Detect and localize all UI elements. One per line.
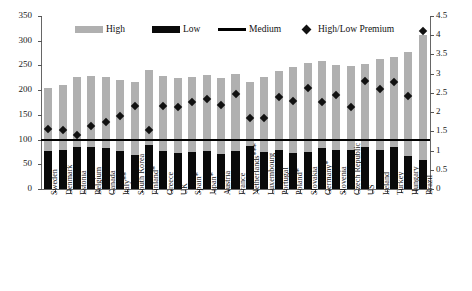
y-tick-right <box>430 170 434 171</box>
bar-group <box>275 16 283 189</box>
y-tick-label-right: 3.5 <box>436 49 466 58</box>
y-tick-label-right: 4 <box>436 30 466 39</box>
legend-label: Medium <box>249 24 281 34</box>
y-tick-label-right: 3 <box>436 69 466 78</box>
bar-group <box>145 16 153 189</box>
y-tick-right <box>430 151 434 152</box>
y-tick-right <box>430 16 434 17</box>
legend-swatch-premium <box>302 24 312 34</box>
chart-container: 05010015020025030035000.511.522.533.544.… <box>0 0 472 291</box>
bar-group <box>404 16 412 189</box>
y-tick-left <box>38 90 42 91</box>
legend-label: High <box>106 24 125 34</box>
bar-group <box>116 16 124 189</box>
y-axis-left <box>41 16 42 189</box>
bar-group <box>304 16 312 189</box>
bar-low <box>361 147 369 189</box>
legend-swatch-low <box>152 26 180 33</box>
y-tick-right <box>430 112 434 113</box>
y-tick-label-left: 100 <box>0 135 32 144</box>
y-tick-label-left: 350 <box>0 11 32 20</box>
y-tick-label-right: 0.5 <box>436 165 466 174</box>
bar-group <box>332 16 340 189</box>
y-tick-left <box>38 189 42 190</box>
bar-group <box>73 16 81 189</box>
y-tick-label-right: 0 <box>436 184 466 193</box>
legend-item: High/Low Premium <box>300 24 394 34</box>
legend-label: Low <box>183 24 200 34</box>
legend-item: Medium <box>218 24 281 34</box>
y-tick-label-right: 4.5 <box>436 11 466 20</box>
bar-group <box>376 16 384 189</box>
y-tick-left <box>38 164 42 165</box>
legend-swatch-high <box>75 26 103 33</box>
y-tick-left <box>38 41 42 42</box>
y-tick-label-left: 50 <box>0 159 32 168</box>
y-tick-right <box>430 35 434 36</box>
legend-item: Low <box>152 24 200 34</box>
y-axis-right <box>430 16 431 189</box>
legend-swatch-medium <box>218 28 246 31</box>
y-tick-label-right: 1 <box>436 146 466 155</box>
bar-group <box>44 16 52 189</box>
legend-item: High <box>75 24 125 34</box>
bar-group <box>102 16 110 189</box>
x-tick-label: Brazil <box>426 175 434 195</box>
bar-group <box>59 16 67 189</box>
y-tick-label-right: 1.5 <box>436 126 466 135</box>
bar-group <box>361 16 369 189</box>
y-tick-label-left: 0 <box>0 184 32 193</box>
y-tick-label-right: 2.5 <box>436 88 466 97</box>
y-tick-left <box>38 16 42 17</box>
bar-group <box>231 16 239 189</box>
bar-group <box>390 16 398 189</box>
y-tick-right <box>430 54 434 55</box>
medium-line <box>41 139 430 141</box>
y-tick-label-right: 2 <box>436 107 466 116</box>
bar-group <box>87 16 95 189</box>
y-tick-label-left: 200 <box>0 85 32 94</box>
y-tick-label-left: 150 <box>0 110 32 119</box>
y-tick-label-left: 300 <box>0 36 32 45</box>
y-tick-label-left: 250 <box>0 60 32 69</box>
y-tick-right <box>430 131 434 132</box>
y-tick-left <box>38 115 42 116</box>
legend-label: High/Low Premium <box>318 24 394 34</box>
y-tick-left <box>38 65 42 66</box>
y-tick-right <box>430 93 434 94</box>
bar-group <box>419 16 427 189</box>
y-tick-right <box>430 74 434 75</box>
